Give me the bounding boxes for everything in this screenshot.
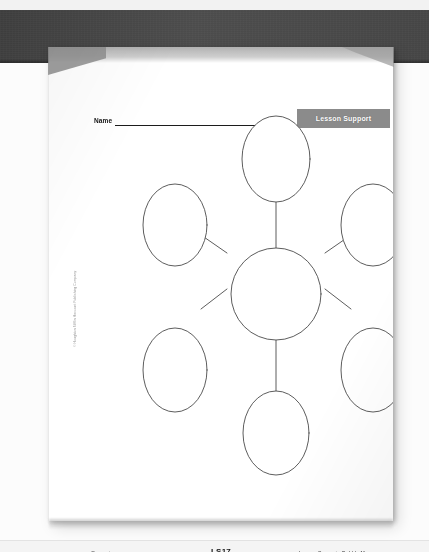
connector-upper-right (325, 235, 351, 253)
bubble-lower-left[interactable] (143, 328, 207, 412)
bubble-lower-right[interactable] (341, 328, 393, 412)
worksheet-page: Name Lesson Support (49, 47, 393, 521)
name-input-rule[interactable] (115, 125, 327, 126)
bubble-top[interactable] (242, 116, 310, 202)
bubble-bottom[interactable] (243, 391, 309, 475)
bubble-upper-right[interactable] (341, 184, 393, 266)
copyright-notice: © Houghton Mifflin Harcourt Publishing C… (73, 217, 77, 347)
bubble-upper-left[interactable] (143, 184, 207, 266)
lesson-support-badge: Lesson Support (297, 109, 390, 128)
lesson-support-badge-label: Lesson Support (316, 115, 371, 122)
bubble-center[interactable] (231, 248, 321, 340)
connector-upper-left (201, 235, 227, 253)
name-field-label: Name (94, 117, 112, 124)
connector-lower-left (201, 289, 227, 309)
screenshot-root: Name Lesson Support (0, 0, 429, 552)
connector-lower-right (325, 289, 351, 309)
